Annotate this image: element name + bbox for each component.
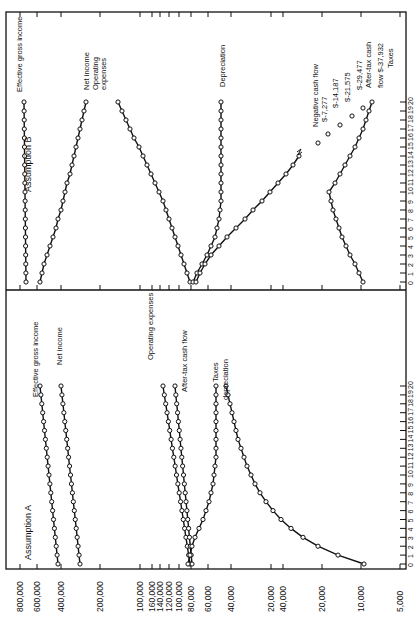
label-a-atcf: After-tax cash flow [180,330,189,392]
label-b-depreciation: Depreciation [218,45,227,87]
year-tick-label: 1 [407,272,414,276]
year-tick-label: 2 [407,545,414,549]
year-tick-label: 13 [407,160,414,168]
year-tick-label: 18 [407,115,414,123]
year-tick-label: 17 [407,124,414,132]
year-tick-label: 4 [407,527,414,531]
year-tick-label: 9 [407,200,414,204]
year-tick-label: 11 [407,179,414,186]
year-tick-label: 6 [407,510,414,514]
year-tick-label: 20 [407,381,414,389]
label-b-neg-4: $-29,477 [355,60,364,90]
year-tick-label: 16 [407,133,414,141]
year-tick-label: 0 [407,563,414,567]
year-tick-label: 4 [407,245,414,249]
year-tick-label: 2 [407,263,414,267]
value-tick-label: 800,000 [15,581,25,612]
label-b-neg-2: $-14,187 [331,78,340,108]
year-tick-label: 15 [407,142,414,150]
label-a-taxes: Taxes [211,362,220,382]
value-tick-label: 20,000 [317,586,327,612]
value-tick-label: 100,000 [174,581,184,612]
year-tick-label: 5 [407,236,414,240]
year-tick-label: 19 [407,390,414,398]
series-layer [22,100,374,566]
label-b-opex-2: expenses [99,58,108,90]
year-tick-label: 16 [407,417,414,425]
year-tick-label: 7 [407,501,414,505]
label-b-neg-1: $-7,277 [320,97,329,122]
year-tick-label: 3 [407,536,414,540]
label-b-net-income: Net income [82,52,91,90]
year-tick-label: 3 [407,254,414,258]
label-b-atcf-1: After-tax cash [364,42,373,88]
value-tick-label: 10,000 [356,586,366,612]
year-tick-label: 14 [407,151,414,159]
year-tick-label: 15 [407,426,414,434]
value-tick-label: 40,000 [278,586,288,612]
value-tick-label: 80,000 [186,586,196,612]
year-tick-label: 20 [407,97,414,105]
value-tick-label: 120,000 [164,581,174,612]
year-tick-label: 12 [407,452,414,460]
year-tick-label: 18 [407,399,414,407]
label-a-opex: Operating expenses [146,293,155,360]
year-tick-label: 1 [407,554,414,558]
value-tick-label: 100,000 [135,581,145,612]
label-a-egi: Effective gross income [31,322,40,397]
value-tick-label: 200,000 [95,581,105,612]
label-a-net-income: Net income [55,327,64,365]
year-tick-label: 9 [407,483,414,487]
panel-a-title: Assumption A [23,505,33,560]
label-a-depreciation: depreciation [221,359,230,400]
chart-canvas: 800,000600,000400,000200,000100,000160,0… [0,0,415,620]
year-tick-label: 8 [407,209,414,213]
panel-b-title: Assumption B [23,136,33,192]
value-tick-label: 400,000 [56,581,66,612]
label-b-egi: Effective gross income [15,17,24,92]
value-tick-label: 40,000 [226,586,236,612]
year-tick-label: 10 [407,187,414,195]
year-tick-label: 5 [407,519,414,523]
year-tick-label: 11 [407,462,414,469]
chart-figure: 800,000600,000400,000200,000100,000160,0… [0,0,415,620]
year-tick-label: 19 [407,106,414,114]
value-tick-label: 20,000 [266,586,276,612]
year-tick-label: 8 [407,492,414,496]
label-b-negative-cash-flow: Negative cash flow [311,63,320,127]
value-tick-label: 60,000 [203,586,213,612]
value-tick-label: 5,000 [395,590,405,612]
value-tick-label: 600,000 [32,581,42,612]
year-tick-label: 6 [407,227,414,231]
label-b-taxes: Taxes [386,48,395,68]
year-tick-label: 17 [407,408,414,416]
year-axis-ticks: 0123456789101112131415161718192001234567… [400,97,414,567]
year-tick-label: 13 [407,443,414,451]
year-tick-label: 0 [407,281,414,285]
label-b-neg-3: $-21,575 [343,72,352,102]
year-tick-label: 7 [407,218,414,222]
year-tick-label: 12 [407,169,414,177]
year-tick-label: 10 [407,470,414,478]
label-b-atcf-2: flow $-37,932 [376,43,385,88]
year-tick-label: 14 [407,435,414,443]
